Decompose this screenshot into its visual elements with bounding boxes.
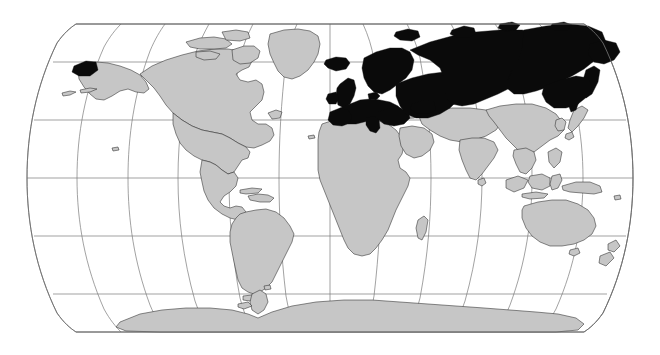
land-philippines	[548, 148, 562, 168]
land-hawaii	[112, 147, 119, 151]
land-caribbean	[248, 194, 274, 202]
land-ellesmere	[222, 30, 250, 41]
land-cuba	[240, 188, 262, 194]
land-new-guinea	[562, 182, 602, 194]
land-antarctic-peninsula	[250, 290, 268, 314]
highlight-chukotka	[588, 40, 620, 64]
land-tasmania	[569, 248, 580, 256]
meridian-150w	[77, 24, 121, 178]
land-aleutians	[62, 91, 76, 96]
land-antarctica	[116, 300, 584, 332]
land-greenland	[268, 29, 320, 79]
highlight-ireland	[326, 92, 339, 104]
land-falklands	[264, 285, 271, 290]
land-madagascar	[416, 216, 428, 240]
land-india	[459, 138, 498, 180]
land-new-zealand-south	[599, 252, 614, 266]
land-sumatra	[506, 176, 528, 192]
land-borneo	[528, 174, 550, 190]
highlight-iberia	[328, 108, 352, 126]
meridian-120w-lower	[128, 178, 165, 332]
land-sulawesi	[550, 174, 562, 190]
land-japan-kyushu	[565, 132, 574, 140]
world-map-svg	[0, 0, 660, 355]
world-map	[0, 0, 660, 355]
land-java	[522, 192, 548, 199]
land-china	[486, 104, 564, 154]
land-newfoundland	[268, 110, 282, 119]
land-canaries	[308, 135, 315, 139]
meridian-180w-lower	[27, 178, 76, 332]
land-baffin	[232, 46, 260, 64]
land-africa	[318, 118, 410, 256]
land-australia	[522, 200, 596, 246]
land-south-shetlands	[238, 302, 252, 309]
meridian-120w	[128, 24, 165, 178]
land-srilanka	[478, 178, 486, 186]
highlight-severnaya-zemlya	[498, 22, 520, 31]
land-arabia	[399, 126, 434, 158]
highlight-svalbard	[394, 29, 420, 41]
land-fiji	[614, 195, 621, 200]
meridian-180w	[27, 24, 76, 178]
meridian-150w-lower	[77, 178, 121, 332]
meridian-120e-lower	[495, 178, 532, 332]
land-new-zealand-north	[608, 240, 620, 252]
highlight-iceland	[324, 57, 350, 71]
land-indochina	[513, 148, 536, 174]
